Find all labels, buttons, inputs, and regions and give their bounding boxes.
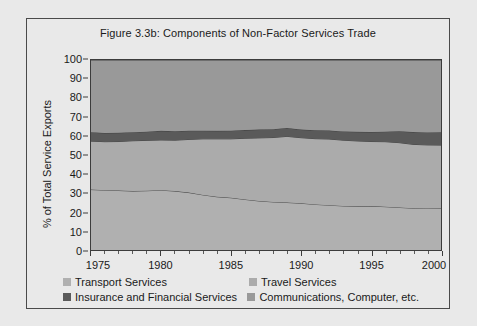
x-tick-minor-mark <box>329 251 330 254</box>
legend-swatch-icon <box>63 278 71 286</box>
x-tick-mark <box>442 251 443 256</box>
x-tick-label: 1995 <box>359 259 383 271</box>
area-band-communications-computer-etc <box>91 60 441 133</box>
figure-frame: Figure 3.3b: Components of Non-Factor Se… <box>26 18 450 309</box>
legend-item-insurance-and-financial-services: Insurance and Financial Services <box>63 291 247 303</box>
x-tick-minor-mark <box>400 251 401 254</box>
x-tick-minor-mark <box>245 251 246 254</box>
x-tick-label: 1980 <box>148 259 172 271</box>
chart-title: Figure 3.3b: Components of Non-Factor Se… <box>27 27 449 39</box>
x-tick-label: 1975 <box>86 259 110 271</box>
x-tick-mark <box>231 251 232 256</box>
legend-swatch-icon <box>249 278 257 286</box>
x-tick-minor-mark <box>259 251 260 254</box>
legend-swatch-icon <box>247 293 255 301</box>
x-tick-minor-mark <box>273 251 274 254</box>
legend-row: Insurance and Financial Services Communi… <box>63 289 419 304</box>
x-tick-minor-mark <box>146 251 147 254</box>
y-tick-mark <box>83 59 88 60</box>
y-axis-ticks: 0102030405060708090100 <box>54 59 88 251</box>
y-tick-label: 20 <box>70 207 82 219</box>
x-tick-mark <box>90 251 91 256</box>
x-tick-mark <box>301 251 302 256</box>
legend-label: Communications, Computer, etc. <box>259 291 419 303</box>
legend-swatch-icon <box>63 293 71 301</box>
legend-row: Transport Services Travel Services <box>63 274 419 289</box>
legend-item-travel-services: Travel Services <box>249 276 336 288</box>
x-tick-minor-mark <box>189 251 190 254</box>
x-tick-minor-mark <box>174 251 175 254</box>
legend-item-communications-computer-etc: Communications, Computer, etc. <box>247 291 419 303</box>
legend-item-transport-services: Transport Services <box>63 276 249 288</box>
y-tick-label: 0 <box>76 245 82 257</box>
screenshot-page: Figure 3.3b: Components of Non-Factor Se… <box>0 0 477 326</box>
legend-label: Insurance and Financial Services <box>75 291 237 303</box>
y-tick-label: 70 <box>70 111 82 123</box>
y-tick-label: 60 <box>70 130 82 142</box>
y-tick-label: 40 <box>70 168 82 180</box>
y-tick-mark <box>83 155 88 156</box>
x-tick-minor-mark <box>414 251 415 254</box>
x-tick-minor-mark <box>358 251 359 254</box>
y-tick-mark <box>83 174 88 175</box>
x-tick-minor-mark <box>118 251 119 254</box>
x-tick-minor-mark <box>343 251 344 254</box>
y-tick-mark <box>83 193 88 194</box>
y-tick-label: 80 <box>70 91 82 103</box>
x-tick-minor-mark <box>315 251 316 254</box>
x-tick-label: 1990 <box>289 259 313 271</box>
y-tick-label: 50 <box>70 149 82 161</box>
y-tick-mark <box>83 97 88 98</box>
y-tick-mark <box>83 116 88 117</box>
y-tick-mark <box>83 251 88 252</box>
x-tick-minor-mark <box>217 251 218 254</box>
x-tick-minor-mark <box>132 251 133 254</box>
x-tick-minor-mark <box>104 251 105 254</box>
y-axis-title: % of Total Service Exports <box>41 99 53 227</box>
x-tick-label: 2000 <box>422 259 446 271</box>
legend-label: Travel Services <box>261 276 336 288</box>
y-tick-mark <box>83 135 88 136</box>
x-tick-minor-mark <box>287 251 288 254</box>
x-tick-mark <box>160 251 161 256</box>
y-tick-mark <box>83 78 88 79</box>
x-tick-minor-mark <box>428 251 429 254</box>
legend-label: Transport Services <box>75 276 167 288</box>
y-tick-label: 90 <box>70 72 82 84</box>
y-tick-mark <box>83 212 88 213</box>
x-tick-mark <box>372 251 373 256</box>
x-axis-ticks: 197519801985199019952000 <box>90 251 442 273</box>
plot-area <box>90 59 442 251</box>
x-tick-minor-mark <box>386 251 387 254</box>
stacked-area-svg <box>91 60 441 250</box>
y-tick-mark <box>83 231 88 232</box>
y-tick-label: 100 <box>64 53 82 65</box>
y-tick-label: 10 <box>70 226 82 238</box>
chart-legend: Transport Services Travel Services Insur… <box>63 274 419 304</box>
plot-wrapper: 0102030405060708090100 <box>90 59 442 251</box>
x-tick-minor-mark <box>203 251 204 254</box>
x-tick-label: 1985 <box>219 259 243 271</box>
y-tick-label: 30 <box>70 187 82 199</box>
